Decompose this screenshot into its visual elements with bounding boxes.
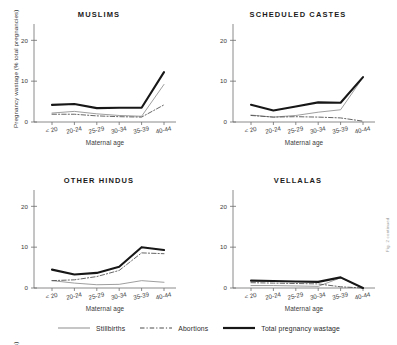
panel-other-hindus: OTHER HINDUS 01020 < 2020-2425-2930-3435… xyxy=(0,166,198,326)
x-axis-label: Maternal age xyxy=(233,305,375,312)
svg-text:20-24: 20-24 xyxy=(264,290,281,300)
svg-text:30-34: 30-34 xyxy=(309,290,326,300)
y-tick-group: 01020 xyxy=(220,203,236,292)
legend-line-total-wastage xyxy=(222,324,256,332)
legend-line-abortions xyxy=(139,324,173,332)
x-axis-label: Maternal age xyxy=(34,139,176,146)
svg-text:30-34: 30-34 xyxy=(110,290,127,300)
series-abortions xyxy=(251,115,363,121)
svg-text:10: 10 xyxy=(21,243,28,250)
svg-text:0: 0 xyxy=(224,284,228,291)
svg-text:10: 10 xyxy=(21,77,28,84)
svg-text:20: 20 xyxy=(21,203,28,210)
svg-text:40-44: 40-44 xyxy=(155,290,172,300)
x-tick-group: < 2020-2425-2930-3435-3940-44 xyxy=(45,122,173,135)
series-abortions xyxy=(52,253,164,281)
svg-text:25-29: 25-29 xyxy=(88,290,105,300)
x-tick-group: < 2020-2425-2930-3435-3940-44 xyxy=(244,288,372,301)
svg-text:0: 0 xyxy=(25,284,29,291)
y-axis-label: Pregnancy wastage (% total pregnancies) xyxy=(12,10,19,128)
x-axis-label: Maternal age xyxy=(233,139,375,146)
svg-text:35-39: 35-39 xyxy=(332,290,349,300)
svg-text:25-29: 25-29 xyxy=(88,124,105,134)
svg-text:40-44: 40-44 xyxy=(155,124,172,134)
svg-text:30-34: 30-34 xyxy=(309,124,326,134)
y-axis-label: Pregnancy wastage (% total pregnancies) xyxy=(12,342,19,345)
series-stillbirths xyxy=(52,281,164,285)
series-total-wastage xyxy=(251,77,363,110)
plot-area-muslims: 01020 < 2020-2425-2930-3435-3940-44 xyxy=(0,0,198,160)
svg-text:< 20: < 20 xyxy=(244,291,258,301)
legend-item-abortions: Abortions xyxy=(139,324,208,332)
svg-text:25-29: 25-29 xyxy=(287,124,304,134)
svg-text:40-44: 40-44 xyxy=(354,290,371,300)
y-tick-group: 01020 xyxy=(21,37,37,126)
svg-text:< 20: < 20 xyxy=(45,125,59,135)
plot-area-vellalas: 01020 < 2020-2425-2930-3435-3940-44 xyxy=(199,166,397,326)
legend-item-stillbirths: Stillbirths xyxy=(57,324,125,332)
figure-pregnancy-wastage-panels: MUSLIMS 01020 < 2020-2425-2930-3435-3940… xyxy=(0,0,397,345)
series-total-wastage xyxy=(52,247,164,274)
x-axis-label: Maternal age xyxy=(34,305,176,312)
legend-item-total-wastage: Total pregnancy wastage xyxy=(222,324,340,332)
svg-text:20: 20 xyxy=(220,37,227,44)
svg-text:35-39: 35-39 xyxy=(332,124,349,134)
svg-text:20-24: 20-24 xyxy=(65,124,82,134)
legend-label-stillbirths: Stillbirths xyxy=(96,325,125,332)
panel-muslims: MUSLIMS 01020 < 2020-2425-2930-3435-3940… xyxy=(0,0,198,160)
series-total-wastage xyxy=(52,72,164,108)
svg-text:40-44: 40-44 xyxy=(354,124,371,134)
svg-text:10: 10 xyxy=(220,77,227,84)
svg-text:30-34: 30-34 xyxy=(110,124,127,134)
figure-side-note: Fig. 2 continued xyxy=(385,218,390,252)
svg-text:25-29: 25-29 xyxy=(287,290,304,300)
legend-label-total-wastage: Total pregnancy wastage xyxy=(261,325,340,332)
svg-text:20-24: 20-24 xyxy=(264,124,281,134)
svg-text:35-39: 35-39 xyxy=(133,124,150,134)
svg-text:20-24: 20-24 xyxy=(65,290,82,300)
svg-text:20: 20 xyxy=(21,37,28,44)
svg-text:0: 0 xyxy=(25,118,29,125)
svg-text:0: 0 xyxy=(224,118,228,125)
legend-label-abortions: Abortions xyxy=(178,325,208,332)
panel-scheduled-castes: SCHEDULED CASTES 01020 < 2020-2425-2930-… xyxy=(199,0,397,160)
x-tick-group: < 2020-2425-2930-3435-3940-44 xyxy=(45,288,173,301)
series-abortions xyxy=(52,105,164,117)
svg-text:10: 10 xyxy=(220,243,227,250)
plot-area-scheduled-castes: 01020 < 2020-2425-2930-3435-3940-44 xyxy=(199,0,397,160)
legend: Stillbirths Abortions Total pregnancy wa… xyxy=(0,321,397,335)
y-tick-group: 01020 xyxy=(21,203,37,292)
y-tick-group: 01020 xyxy=(220,37,236,126)
plot-area-other-hindus: 01020 < 2020-2425-2930-3435-3940-44 xyxy=(0,166,198,326)
svg-text:< 20: < 20 xyxy=(45,291,59,301)
svg-text:20: 20 xyxy=(220,203,227,210)
x-tick-group: < 2020-2425-2930-3435-3940-44 xyxy=(244,122,372,135)
svg-text:35-39: 35-39 xyxy=(133,290,150,300)
svg-text:< 20: < 20 xyxy=(244,125,258,135)
legend-line-stillbirths xyxy=(57,324,91,332)
panel-vellalas: VELLALAS 01020 < 2020-2425-2930-3435-394… xyxy=(199,166,397,326)
